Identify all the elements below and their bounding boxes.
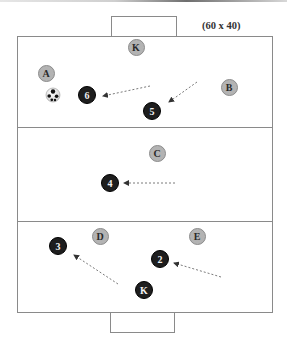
teammate-marker-6: 6: [78, 86, 96, 104]
soccer-ball-icon: [46, 88, 60, 102]
opponent-marker-a: A: [38, 65, 55, 82]
opponent-marker-b: B: [221, 79, 238, 96]
opponent-marker-k: K: [128, 39, 145, 56]
field-dimension-label: (60 x 40): [202, 20, 241, 31]
zone-dividers: [17, 128, 272, 222]
teammate-marker-2: 2: [151, 250, 169, 268]
opponent-marker-d: D: [92, 228, 109, 245]
run-arrow: [103, 86, 150, 96]
teammate-marker-3: 3: [49, 237, 67, 255]
run-arrow: [174, 263, 221, 277]
teammate-marker-4: 4: [101, 174, 119, 192]
top-goal: [112, 17, 177, 37]
run-arrow: [74, 255, 118, 284]
field-boundary: [18, 37, 273, 313]
opponent-marker-e: E: [189, 228, 206, 245]
bottom-goal: [111, 313, 175, 333]
run-arrow: [169, 82, 197, 102]
teammate-marker-k: K: [135, 281, 153, 299]
opponent-marker-c: C: [149, 145, 166, 162]
teammate-marker-5: 5: [143, 102, 161, 120]
